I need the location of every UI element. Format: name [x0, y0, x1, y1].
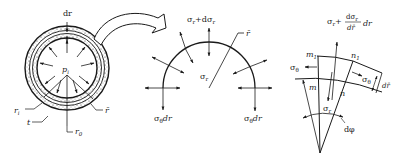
label-top-formula-numerator: dσr	[346, 13, 358, 22]
stress-diagram: dr pi ri t r0 r̄ σr+dσr	[0, 0, 398, 160]
label-top-formula-suffix: dr	[363, 19, 373, 28]
label-m1: m1	[306, 50, 317, 60]
label-mean-radius-b: r̄	[246, 29, 251, 38]
label-thickness-c: dr̄	[382, 82, 391, 90]
label-center-stress: σr	[200, 72, 208, 82]
label-n: n	[340, 89, 345, 98]
label-n1: n1	[351, 51, 360, 61]
label-right-hoop-c: σθ	[362, 75, 371, 85]
label-top-stress: σr+dσr	[187, 15, 215, 25]
label-right-hoop: σθdr	[244, 114, 263, 124]
diagram-canvas: dr pi ri t r0 r̄ σr+dσr	[0, 0, 398, 160]
label-radial-stress-c: σr	[323, 104, 331, 114]
label-top-formula: σr+	[327, 17, 342, 27]
panel-a-cylinder: dr pi ri t r0 r̄	[14, 9, 110, 137]
label-left-hoop-c: σθ	[290, 63, 299, 73]
label-angle: dφ	[344, 125, 355, 134]
label-inner-radius: ri	[14, 106, 20, 116]
panel-b-half-ring: σr+dσr σr r̄ σθdr σθdr	[145, 15, 272, 124]
label-left-hoop: σθdr	[154, 114, 173, 124]
label-dr: dr	[63, 9, 72, 18]
label-top-formula-denominator: dr̄	[347, 24, 356, 32]
label-outer-radius: r0	[75, 127, 83, 137]
label-thickness: t	[27, 118, 31, 127]
panel-c-element: σr+ dσr dr̄ dr m1 n1 σθ σθ dr̄ m n σr dφ	[290, 13, 391, 153]
label-m: m	[309, 83, 317, 92]
transfer-arrow	[94, 13, 166, 45]
label-mean-radius: r̄	[105, 106, 110, 115]
